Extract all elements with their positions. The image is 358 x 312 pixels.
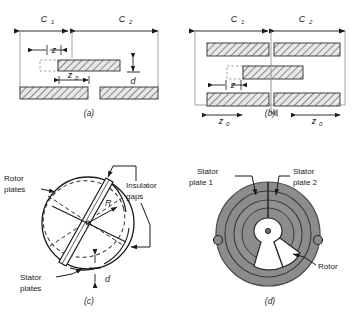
panel-d: Stator plate 1 Stator plate 2 Rotor (d) <box>180 150 358 312</box>
panel-b-c2-label: C <box>299 14 306 24</box>
panel-a-fixed-plate-left <box>20 87 88 99</box>
panel-c-stator-plates-label-line1: Stator <box>20 273 42 282</box>
panel-d-mounting-hole-left <box>214 236 223 245</box>
panel-c-rotor-plates-label-line2: plates <box>4 185 25 194</box>
panel-b-z-dimension <box>213 80 242 90</box>
panel-a-z0-label: z <box>67 70 73 80</box>
panel-a-drawing: C 1 C 2 <box>0 0 178 125</box>
panel-b-z0-left-label: z <box>218 116 224 126</box>
panel-c-stator-plates-label-line2: plates <box>20 284 41 293</box>
panel-b-z0-right-subscript: 0 <box>319 121 323 127</box>
panel-b-z0-left-subscript: 0 <box>226 121 230 127</box>
panel-d-mounting-hole-right <box>314 236 323 245</box>
panel-d-stator-plate-2-line1: Stator <box>293 167 315 176</box>
panel-b: C 1 C 2 <box>180 0 358 125</box>
panel-a-c1-label: C <box>41 14 48 24</box>
panel-b-c2-subscript: 2 <box>308 19 313 25</box>
figure-root: C 1 C 2 <box>0 0 358 312</box>
panel-b-bottom-plate-right <box>274 93 340 106</box>
panel-a-z-label: z <box>51 45 57 55</box>
panel-b-c1-subscript: 1 <box>241 19 244 25</box>
panel-b-bottom-plate-left <box>207 93 269 106</box>
panel-a-z-dimension <box>33 45 62 55</box>
panel-c-rotor-plates-leader <box>41 189 55 192</box>
panel-c-insulator-gaps-label-line2: gaps <box>126 192 143 201</box>
panel-d-stator-plate-1-line2: plate 1 <box>189 178 214 187</box>
panel-c-rotor-plates-label-line1: Rotor <box>4 174 24 183</box>
panel-c-insulator-gaps-leader-top <box>108 166 136 181</box>
panel-d-rotor-label: Rotor <box>318 262 338 271</box>
panel-d-rotor-shaft <box>265 228 270 233</box>
panel-b-caption: (b) <box>250 108 290 118</box>
panel-a-c2-label: C <box>119 14 126 24</box>
panel-a-z0-dimension <box>59 76 89 84</box>
panel-a-c1-subscript: 1 <box>51 19 54 25</box>
panel-a-c2-subscript: 2 <box>128 19 133 25</box>
panel-d-stator-plate-2-line2: plate 2 <box>293 178 318 187</box>
panel-a: C 1 C 2 <box>0 0 178 125</box>
panel-a-ghost-plate <box>40 60 58 71</box>
panel-b-z-label: z <box>230 80 236 90</box>
panel-c-caption: (c) <box>69 296 109 306</box>
panel-a-caption: (a) <box>69 108 109 118</box>
panel-d-drawing: Stator plate 1 Stator plate 2 Rotor <box>180 150 358 312</box>
panel-b-z0-right-label: z <box>311 116 317 126</box>
panel-c-drawing: R Rotor plates Insulator gaps Stator pla… <box>0 150 178 312</box>
panel-c-d-label: d <box>105 274 111 284</box>
panel-b-top-plate-right <box>274 43 340 56</box>
panel-d-caption: (d) <box>250 296 290 306</box>
panel-c-insulator-gaps-label-line1: Insulator <box>126 181 157 190</box>
panel-a-fixed-plate-right <box>100 87 158 99</box>
panel-b-top-plate-left <box>207 43 269 56</box>
panel-c: R Rotor plates Insulator gaps Stator pla… <box>0 150 178 312</box>
panel-a-d-dimension <box>127 58 140 72</box>
panel-d-stator-plate-1-line1: Stator <box>197 167 219 176</box>
panel-b-ghost-plate <box>227 66 243 79</box>
panel-a-d-label: d <box>130 76 136 86</box>
panel-b-movable-plate <box>243 66 303 79</box>
panel-c-radius-label: R <box>105 198 112 208</box>
panel-b-c1-label: C <box>231 14 238 24</box>
panel-b-drawing: C 1 C 2 <box>180 0 358 125</box>
